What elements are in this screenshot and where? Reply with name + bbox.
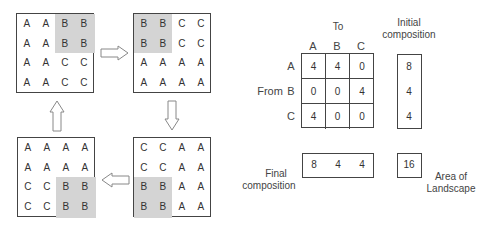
grid-cell: B [56,177,76,197]
to-label: To [330,21,346,33]
area-label-line2: Landscape [421,183,481,195]
grid-cell: C [37,177,57,197]
matrix-cell: 4 [302,104,326,129]
row-header-a: A [285,60,297,72]
grid-cell: A [191,53,211,73]
grid-cell: C [191,14,211,34]
grid-cell: A [75,138,95,158]
grid-cell: A [172,73,192,93]
grid-cell: A [36,34,56,54]
grid-cell: A [36,53,56,73]
grid-cell: A [17,14,37,34]
matrix-cell: 4 [326,54,350,79]
grid-cell: C [55,53,75,73]
matrix-cell: 0 [350,104,374,129]
grid-cell: C [153,138,173,158]
initial-label-line1: Initial [389,17,429,29]
arrow-up-icon [49,100,65,132]
grid-cell: A [172,53,192,73]
final-label-line1: Final [256,168,296,180]
grid-cell: C [134,158,154,178]
grid-cell: B [75,177,95,197]
grid-cell: A [153,73,173,93]
row-header-c: C [285,110,297,122]
grid-cell: A [134,73,154,93]
matrix-cell: 4 [350,79,374,104]
grid-cell: C [172,34,192,54]
grid-cell: A [36,14,56,34]
grid-cell: C [172,14,192,34]
grid-cell: A [172,158,192,178]
final-value-b: 4 [326,159,350,170]
grid-cell: B [153,177,173,197]
arrow-down-icon [164,100,180,132]
grid-cell: A [18,138,38,158]
col-header-b: B [325,40,349,52]
matrix-cell: 0 [302,79,326,104]
grid-cell: C [74,53,94,73]
grid-cell: A [56,158,76,178]
initial-value-c: 4 [397,111,421,122]
grid-cell: C [18,177,38,197]
matrix-cell: 4 [302,54,326,79]
grid-step-2: BBCCBBCCAAAAAAAA [133,13,211,93]
grid-cell: A [18,158,38,178]
grid-cell: A [17,53,37,73]
grid-cell: B [75,197,95,217]
grid-cell: B [134,177,154,197]
grid-cell: A [153,53,173,73]
grid-cell: C [18,197,38,217]
grid-cell: B [74,34,94,54]
grid-cell: B [153,14,173,34]
matrix-cell: 0 [350,54,374,79]
matrix-cell: 0 [326,104,350,129]
initial-value-b: 4 [397,86,421,97]
col-header-a: A [301,40,325,52]
grid-cell: B [134,197,154,217]
area-value: 16 [397,159,421,170]
grid-step-4: AAAAAAAACCBBCCBB [17,137,95,217]
grid-cell: C [74,73,94,93]
transition-matrix: 440004400 [301,53,374,128]
initial-label-line2: composition [380,29,438,41]
grid-cell: B [153,197,173,217]
grid-cell: B [74,14,94,34]
from-label: From [257,85,283,97]
grid-cell: A [17,34,37,54]
grid-cell: A [134,53,154,73]
grid-cell: A [191,138,211,158]
grid-cell: A [75,158,95,178]
grid-cell: A [191,73,211,93]
grid-cell: A [37,138,57,158]
grid-cell: C [191,34,211,54]
grid-step-1: AABBAABBAACCAACC [16,13,94,93]
grid-cell: C [153,158,173,178]
grid-cell: A [191,197,211,217]
final-value-c: 4 [350,159,374,170]
grid-cell: A [172,197,192,217]
arrow-right-icon [100,45,130,61]
initial-value-a: 8 [397,61,421,72]
grid-cell: B [56,197,76,217]
grid-cell: A [172,138,192,158]
grid-cell: C [55,73,75,93]
grid-cell: B [134,34,154,54]
grid-cell: B [153,34,173,54]
grid-cell: A [36,73,56,93]
grid-cell: A [17,73,37,93]
grid-cell: B [134,14,154,34]
final-value-a: 8 [302,159,326,170]
grid-cell: B [55,14,75,34]
grid-cell: A [37,158,57,178]
grid-cell: A [191,158,211,178]
grid-cell: A [172,177,192,197]
grid-step-3: CCAACCAABBAABBAA [133,137,211,217]
final-label-line2: composition [240,180,298,192]
area-label-line1: Area of [426,171,476,183]
matrix-cell: 0 [326,79,350,104]
row-header-b: B [285,85,297,97]
grid-cell: B [55,34,75,54]
arrow-left-icon [100,172,130,188]
grid-cell: C [37,197,57,217]
grid-cell: C [134,138,154,158]
